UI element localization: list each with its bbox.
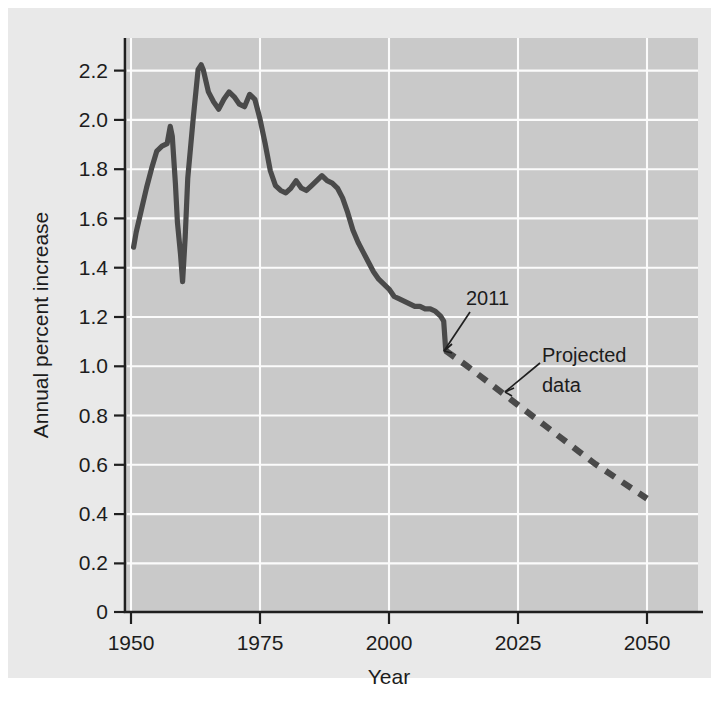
plot-area-background — [127, 38, 698, 612]
x-axis-tick-labels: 1950 1975 2000 2025 2050 — [108, 631, 671, 654]
y-tick-label: 0.8 — [79, 404, 108, 427]
y-tick-label: 2.0 — [79, 108, 108, 131]
x-tick-label: 2050 — [624, 631, 671, 654]
y-tick-label: 0.6 — [79, 453, 108, 476]
y-tick-label: 0 — [96, 600, 108, 623]
x-tick-label: 2000 — [366, 631, 413, 654]
y-tick-label: 0.2 — [79, 551, 108, 574]
projected-data-label-line2: data — [542, 374, 582, 396]
y-tick-label: 0.4 — [79, 502, 109, 525]
y-tick-label: 2.2 — [79, 59, 108, 82]
y-tick-label: 1.8 — [79, 157, 108, 180]
y-axis-ticks — [114, 71, 125, 612]
y-tick-label: 1.0 — [79, 354, 108, 377]
x-tick-label: 2025 — [495, 631, 542, 654]
year-2011-label: 2011 — [466, 287, 509, 309]
y-axis-title: Annual percent increase — [29, 212, 52, 438]
x-tick-label: 1975 — [237, 631, 284, 654]
x-axis-ticks — [131, 612, 647, 624]
y-tick-label: 1.4 — [79, 256, 109, 279]
y-tick-label: 1.2 — [79, 305, 108, 328]
y-tick-label: 1.6 — [79, 207, 108, 230]
population-growth-line-chart: 2.2 2.0 1.8 1.6 1.4 1.2 1.0 0.8 0.6 0.4 … — [0, 0, 719, 719]
x-axis-title: Year — [368, 665, 410, 688]
chart-figure: 2.2 2.0 1.8 1.6 1.4 1.2 1.0 0.8 0.6 0.4 … — [0, 0, 719, 719]
x-tick-label: 1950 — [108, 631, 155, 654]
y-axis-tick-labels: 2.2 2.0 1.8 1.6 1.4 1.2 1.0 0.8 0.6 0.4 … — [79, 59, 109, 623]
projected-data-label-line1: Projected — [542, 344, 627, 366]
